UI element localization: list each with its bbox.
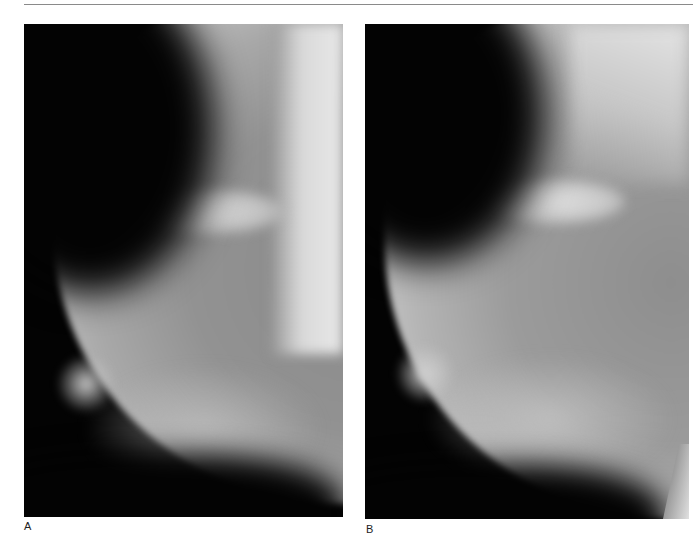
mammogram-image-a <box>24 24 343 517</box>
chest-wall <box>569 24 689 184</box>
nipple-region <box>395 344 455 404</box>
mammogram-image-b <box>365 24 689 519</box>
chest-wall <box>273 24 343 354</box>
panel-label-b: B <box>366 523 373 535</box>
panel-label-a: A <box>24 520 31 532</box>
header-rule <box>24 4 693 5</box>
nipple-region <box>56 354 116 414</box>
